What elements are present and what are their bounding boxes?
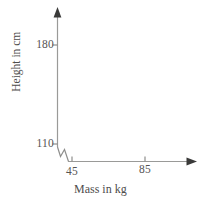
y-axis-tick-label-180: 180 bbox=[30, 39, 54, 51]
arrowhead-up-icon bbox=[54, 7, 62, 18]
axis-break-zigzag-icon bbox=[58, 147, 69, 162]
y-axis-title: Height in cm bbox=[11, 9, 23, 115]
x-axis-tick-label-45: 45 bbox=[61, 166, 83, 178]
blank-graph-axes-figure: 180 110 45 85 Height in cm Mass in kg bbox=[0, 0, 204, 206]
x-axis-tick-label-85: 85 bbox=[134, 164, 156, 176]
y-axis-tick-label-110: 110 bbox=[30, 138, 54, 150]
x-axis-title: Mass in kg bbox=[74, 183, 184, 195]
arrowhead-right-icon bbox=[187, 158, 198, 166]
axes-drawing bbox=[0, 0, 204, 206]
